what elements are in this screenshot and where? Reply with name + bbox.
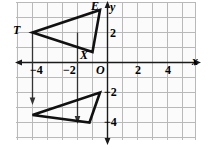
y-tick-label--4: −4 (104, 116, 117, 128)
y-tick-label--2: −2 (104, 86, 117, 98)
origin-label: O (96, 64, 105, 76)
x-axis-label: x (192, 55, 198, 67)
x-tick-label-2: 2 (135, 64, 141, 76)
vertex-label-t: T (13, 24, 20, 36)
x-tick-label--4: −4 (30, 64, 43, 76)
vertex-label-e: E (91, 0, 99, 12)
x-tick-label--2: −2 (63, 64, 76, 76)
coordinate-plane-figure: E T X y x O −4 −2 2 4 2 −2 −4 (0, 0, 211, 150)
vertex-label-x: X (80, 49, 88, 61)
y-tick-label-2: 2 (110, 27, 116, 39)
y-axis-label: y (110, 1, 115, 13)
x-tick-label-4: 4 (165, 64, 171, 76)
